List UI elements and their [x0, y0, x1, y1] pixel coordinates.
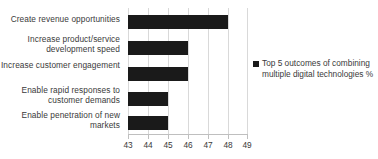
tickmark	[168, 135, 169, 139]
gridline-49	[247, 8, 248, 135]
x-tick-label: 43	[118, 140, 138, 150]
bar-increase-development-speed	[128, 41, 188, 55]
chart-legend: Top 5 outcomes of combining multiple dig…	[253, 58, 375, 81]
x-tick-label: 49	[237, 140, 257, 150]
category-axis-labels: Create revenue opportunities Increase pr…	[0, 8, 124, 135]
legend-square-icon	[253, 61, 259, 67]
category-label: Enable penetration of new markets	[0, 110, 120, 130]
x-axis-ticks: 43 44 45 46 47 48 49	[128, 135, 248, 155]
tickmark	[128, 135, 129, 139]
category-label: Increase customer engagement	[0, 60, 120, 70]
x-tick-label: 46	[178, 140, 198, 150]
bar-create-revenue-opportunities	[128, 15, 228, 29]
tickmark	[148, 135, 149, 139]
tickmark	[247, 135, 248, 139]
bar-chart: Create revenue opportunities Increase pr…	[0, 0, 378, 159]
category-label: Enable rapid responses to customer deman…	[0, 85, 120, 105]
x-tick-label: 45	[158, 140, 178, 150]
tickmark	[188, 135, 189, 139]
gridline-48	[228, 8, 229, 135]
category-label: Increase product/service development spe…	[0, 34, 120, 54]
category-label: Create revenue opportunities	[0, 14, 120, 24]
plot-area	[128, 8, 248, 135]
tickmark	[228, 135, 229, 139]
legend-entry: Top 5 outcomes of combining multiple dig…	[253, 58, 375, 81]
bar-enable-rapid-responses	[128, 92, 168, 106]
x-tick-label: 44	[138, 140, 158, 150]
x-tick-label: 47	[198, 140, 218, 150]
tickmark	[208, 135, 209, 139]
legend-label: Top 5 outcomes of combining multiple dig…	[262, 58, 375, 81]
bar-enable-penetration-new-markets	[128, 116, 168, 130]
x-tick-label: 48	[218, 140, 238, 150]
bar-increase-customer-engagement	[128, 67, 188, 81]
